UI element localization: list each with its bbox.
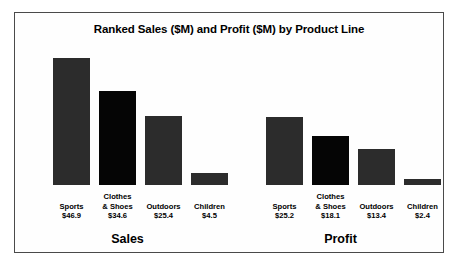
bar-category-label: Children	[187, 202, 233, 211]
bar-category-label: Outdoors	[354, 202, 400, 211]
bar-value-label: $34.6	[95, 211, 141, 220]
group-title-sales: Sales	[25, 232, 230, 246]
bar-value-label: $25.2	[262, 211, 308, 220]
bar-label: Clothes& Shoes$34.6	[95, 192, 141, 220]
bar[interactable]	[312, 136, 349, 185]
bar-category-label: Children	[400, 202, 446, 211]
bar[interactable]	[358, 149, 395, 185]
bar-value-label: $2.4	[400, 211, 446, 220]
bar-category-label: Outdoors	[141, 202, 187, 211]
bar-category-label: Clothes	[308, 192, 354, 201]
bar[interactable]	[191, 173, 228, 185]
bar[interactable]	[145, 116, 182, 185]
bar-value-label: $46.9	[49, 211, 95, 220]
bar-label: Children$4.5	[187, 202, 233, 220]
plot-area: Sales Sports$46.9Clothes& Shoes$34.6Outd…	[15, 13, 445, 254]
bar-category-label: Sports	[262, 202, 308, 211]
group-title-profit: Profit	[238, 232, 443, 246]
bar-group-sales: Sales Sports$46.9Clothes& Shoes$34.6Outd…	[25, 13, 230, 254]
bar[interactable]	[53, 58, 90, 185]
bar-category-label: Sports	[49, 202, 95, 211]
bar-value-label: $18.1	[308, 211, 354, 220]
bar-value-label: $13.4	[354, 211, 400, 220]
bar-label: Clothes& Shoes$18.1	[308, 192, 354, 220]
chart-frame: Ranked Sales ($M) and Profit ($M) by Pro…	[14, 12, 444, 253]
bar-label: Children$2.4	[400, 202, 446, 220]
bar-category-label-cont: & Shoes	[95, 202, 141, 211]
bar-group-profit: Profit Sports$25.2Clothes& Shoes$18.1Out…	[238, 13, 443, 254]
bar-label: Sports$25.2	[262, 202, 308, 220]
bar-category-label: Clothes	[95, 192, 141, 201]
bar-value-label: $25.4	[141, 211, 187, 220]
bar-label: Outdoors$13.4	[354, 202, 400, 220]
bar[interactable]	[404, 179, 441, 185]
bar[interactable]	[266, 117, 303, 185]
bar-value-label: $4.5	[187, 211, 233, 220]
bar-label: Outdoors$25.4	[141, 202, 187, 220]
bar-label: Sports$46.9	[49, 202, 95, 220]
bar[interactable]	[99, 91, 136, 185]
bar-category-label-cont: & Shoes	[308, 202, 354, 211]
